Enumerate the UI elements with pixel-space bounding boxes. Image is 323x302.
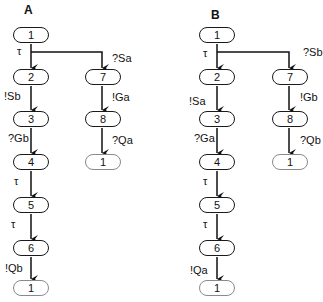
state-node: 8 xyxy=(85,111,121,127)
state-node: 2 xyxy=(13,69,49,85)
terminal-state-node: 1 xyxy=(272,154,308,170)
state-node: 4 xyxy=(13,154,49,170)
state-node: 8 xyxy=(272,111,308,127)
terminal-state-node: 1 xyxy=(199,280,235,296)
edge-a-1-7 xyxy=(31,52,102,68)
state-node: 5 xyxy=(199,197,235,213)
state-node: 3 xyxy=(13,111,49,127)
terminal-state-node: 1 xyxy=(85,154,121,170)
state-node: 2 xyxy=(199,69,235,85)
panel-title: B xyxy=(211,8,220,22)
edge-label: ?Qa xyxy=(112,134,133,146)
edge-label: ?Gb xyxy=(8,132,29,144)
edge-label: !Qa xyxy=(190,264,208,276)
edge-label: τ xyxy=(11,218,15,230)
edge-label: !Sb xyxy=(4,90,21,102)
state-node: 3 xyxy=(199,111,235,127)
state-node: 6 xyxy=(199,240,235,256)
state-node: 4 xyxy=(199,154,235,170)
edge-label: !Gb xyxy=(300,91,318,103)
terminal-state-node: 1 xyxy=(13,280,49,296)
state-node: 5 xyxy=(13,197,49,213)
edge-label: ?Qb xyxy=(300,134,321,146)
edge-label: ?Ga xyxy=(194,132,215,144)
panel-title: A xyxy=(24,3,33,17)
edge-label: τ xyxy=(203,218,207,230)
edge-label: ?Sa xyxy=(112,52,132,64)
edge-label: !Ga xyxy=(112,91,130,103)
edge-label: !Sa xyxy=(189,95,206,107)
edge-label: τ xyxy=(17,45,21,57)
state-node: 7 xyxy=(272,69,308,85)
state-node: 1 xyxy=(13,27,49,43)
edge-label: τ xyxy=(203,175,207,187)
state-node: 1 xyxy=(199,27,235,43)
edge-b-1-7 xyxy=(217,52,289,68)
edge-label: τ xyxy=(203,47,207,59)
state-node: 7 xyxy=(85,69,121,85)
state-node: 6 xyxy=(13,240,49,256)
edge-label: τ xyxy=(14,175,18,187)
edge-label: ?Sb xyxy=(303,46,323,58)
edge-label: !Qb xyxy=(5,262,23,274)
